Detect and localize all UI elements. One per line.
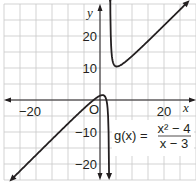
x-tick-label-neg20: −20 xyxy=(19,104,41,119)
y-tick-label-10: 10 xyxy=(83,61,97,76)
x-axis-label: x xyxy=(182,100,189,115)
y-tick-label-neg10: −10 xyxy=(75,125,97,140)
function-graph: y x O 20 10 −10 −20 −20 20 g(x) = x² − 4… xyxy=(0,0,196,192)
function-equation-label: g(x) = x² − 4 x − 3 xyxy=(112,120,194,156)
x-tick-label-20: 20 xyxy=(157,104,171,119)
x-axis-right-arrow-icon xyxy=(189,98,196,103)
y-axis-down-arrow-icon xyxy=(98,173,103,180)
fraction-numerator: x² − 4 xyxy=(158,121,191,136)
fraction-denominator: x − 3 xyxy=(160,136,189,151)
y-tick-label-20: 20 xyxy=(83,29,97,44)
y-axis-label: y xyxy=(85,5,93,20)
y-axis-up-arrow-icon xyxy=(98,4,103,11)
x-axis-left-arrow-icon xyxy=(4,98,11,103)
origin-label: O xyxy=(89,102,99,117)
left-branch-asymptote-arrow-icon xyxy=(106,173,112,180)
function-name: g(x) = xyxy=(114,128,148,143)
y-tick-label-neg20: −20 xyxy=(75,157,97,172)
